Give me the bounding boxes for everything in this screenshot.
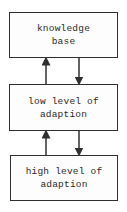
high-level-label-line1: high level of xyxy=(26,165,103,178)
high-level-label-line2: adaption xyxy=(40,178,87,191)
low-level-label-line2: adaption xyxy=(40,108,87,121)
low-level-label-line1: low level of xyxy=(28,95,99,108)
low-level-adaption-box: low level of adaption xyxy=(9,84,118,131)
knowledge-base-label-line1: knowledge xyxy=(37,22,90,35)
knowledge-base-box: knowledge base xyxy=(9,12,118,58)
knowledge-base-label-line2: base xyxy=(52,35,76,48)
high-level-adaption-box: high level of adaption xyxy=(10,155,118,201)
